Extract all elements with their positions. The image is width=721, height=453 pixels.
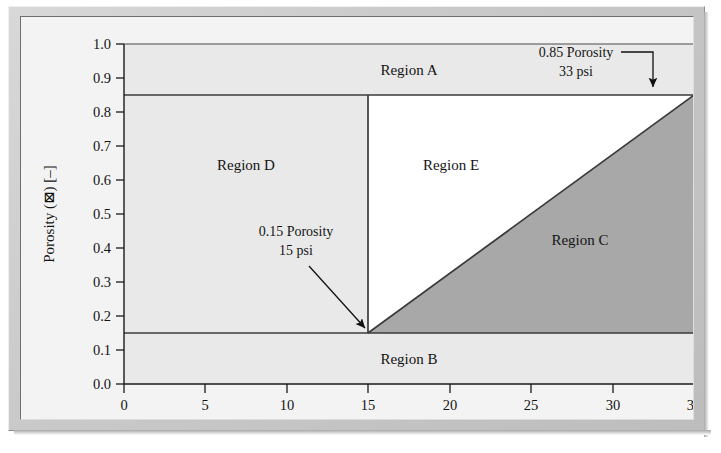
- region-label-c: Region C: [551, 232, 608, 248]
- y-axis-title-symbol: ⊠: [41, 191, 57, 204]
- region-label-d: Region D: [217, 157, 275, 173]
- y-axis-ticks: [116, 44, 124, 384]
- region-label-a: Region A: [380, 62, 437, 78]
- region-label-b: Region B: [380, 351, 437, 367]
- figure-inner-panel: 1.0 0.9 0.8 0.7 0.6 0.5 0.4 0.3 0.2 0.1 …: [20, 16, 694, 420]
- y-tick-label: 0.7: [93, 138, 111, 154]
- x-tick-label: 10: [280, 397, 295, 413]
- y-axis-title-name: Porosity (: [41, 204, 58, 263]
- porosity-pressure-chart: 1.0 0.9 0.8 0.7 0.6 0.5 0.4 0.3 0.2 0.1 …: [21, 17, 694, 420]
- x-tick-label: 0: [120, 397, 127, 413]
- y-tick-label: 0.8: [93, 104, 111, 120]
- y-axis-title: Porosity (⊠) [–]: [41, 165, 58, 263]
- region-label-e: Region E: [423, 157, 479, 173]
- annotation-high-line1: 0.85 Porosity: [539, 45, 614, 60]
- figure-frame: 1.0 0.9 0.8 0.7 0.6 0.5 0.4 0.3 0.2 0.1 …: [8, 6, 705, 431]
- y-tick-label: 0.2: [93, 308, 111, 324]
- y-tick-label: 0.4: [93, 240, 112, 256]
- x-tick-label: 5: [201, 397, 208, 413]
- x-axis-ticks: [124, 384, 694, 393]
- y-tick-label: 0.5: [93, 206, 111, 222]
- annotation-high-line2: 33 psi: [559, 64, 593, 79]
- annotation-low-line2: 15 psi: [279, 243, 313, 258]
- y-tick-label: 1.0: [93, 36, 111, 52]
- y-axis-tick-labels: 1.0 0.9 0.8 0.7 0.6 0.5 0.4 0.3 0.2 0.1 …: [93, 36, 112, 392]
- frame-drop-shadow-right: [704, 12, 709, 437]
- x-tick-label: 30: [606, 397, 621, 413]
- x-tick-label: 15: [361, 397, 376, 413]
- region-d-fill: [124, 95, 368, 333]
- y-tick-label: 0.1: [93, 342, 111, 358]
- x-tick-label: 25: [524, 397, 539, 413]
- y-tick-label: 0.3: [93, 274, 111, 290]
- annotation-low-line1: 0.15 Porosity: [259, 224, 334, 239]
- x-tick-label: 35: [687, 397, 694, 413]
- y-tick-label: 0.6: [93, 172, 111, 188]
- frame-drop-shadow-bottom: [14, 430, 711, 435]
- y-tick-label: 0.0: [93, 376, 111, 392]
- y-tick-label: 0.9: [93, 70, 111, 86]
- x-tick-label: 20: [443, 397, 458, 413]
- x-axis-tick-labels: 0 5 10 15 20 25 30 35: [120, 397, 694, 413]
- y-axis-title-units: ) [–]: [41, 165, 58, 191]
